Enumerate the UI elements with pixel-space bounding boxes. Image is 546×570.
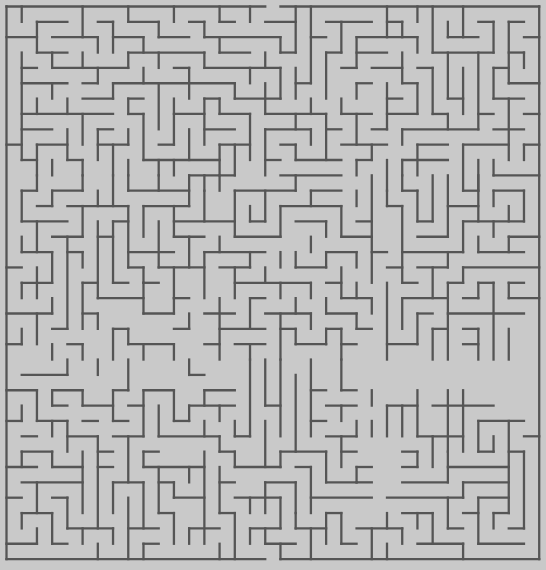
maze-board (0, 0, 546, 570)
maze-walls (0, 0, 546, 570)
